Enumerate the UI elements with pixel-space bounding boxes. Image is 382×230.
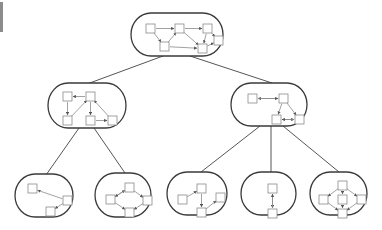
- graph-node-box: [214, 36, 223, 45]
- tree-edge-root-to-mid-right: [190, 56, 272, 83]
- tree-edge-mid-right-to-leaf-5: [283, 126, 339, 172]
- graph-node-box: [268, 209, 277, 218]
- graph-node-box: [203, 24, 212, 33]
- graph-node-box: [338, 181, 347, 190]
- graph-node-box: [46, 207, 55, 216]
- graph-node-box: [106, 195, 115, 204]
- tree-edge-root-to-mid-left: [87, 56, 163, 84]
- graph-node-box: [86, 92, 95, 101]
- container-outline: [15, 174, 73, 217]
- graph-node-box: [125, 208, 134, 217]
- graph-node-box: [248, 94, 257, 103]
- graph-node-box: [108, 116, 117, 125]
- graph-node-box: [175, 24, 184, 33]
- tree-edge-mid-right-to-leaf-3: [201, 126, 260, 172]
- graph-node-box: [63, 92, 72, 101]
- graph-node-box: [28, 184, 37, 193]
- container-leaf-2[interactable]: [95, 173, 152, 217]
- graph-node-box: [125, 183, 134, 192]
- graph-node-box: [86, 116, 95, 125]
- container-leaf-3[interactable]: [167, 172, 227, 217]
- container-mid-right[interactable]: [231, 83, 307, 126]
- graph-node-box: [338, 195, 347, 204]
- graph-node-box: [178, 195, 187, 204]
- container-leaf-4[interactable]: [241, 172, 296, 218]
- container-outline: [241, 172, 296, 215]
- graph-node-box: [146, 24, 155, 33]
- graph-node-box: [272, 115, 281, 124]
- graph-node-box: [338, 209, 347, 218]
- container-leaf-5[interactable]: [310, 172, 367, 218]
- container-leaf-1[interactable]: [15, 174, 73, 217]
- container-outline: [131, 13, 223, 56]
- container-mid-left[interactable]: [48, 83, 126, 128]
- container-outline: [95, 173, 151, 217]
- graph-node-box: [295, 115, 304, 124]
- graph-node-box: [279, 94, 288, 103]
- tree-edge-mid-left-to-leaf-1: [46, 128, 79, 175]
- hierarchy-diagram: [0, 0, 382, 230]
- graph-node-box: [268, 184, 277, 193]
- container-root[interactable]: [131, 13, 223, 56]
- graph-node-box: [63, 116, 72, 125]
- graph-node-box: [319, 195, 328, 204]
- graph-node-box: [143, 196, 152, 205]
- graph-node-box: [160, 42, 169, 51]
- container-outline: [310, 172, 367, 215]
- graph-node-box: [357, 195, 366, 204]
- tree-edge-mid-left-to-leaf-2: [94, 128, 125, 173]
- graph-node-box: [216, 193, 225, 202]
- graph-node-box: [197, 184, 206, 193]
- graph-node-box: [63, 196, 72, 205]
- graph-node-box: [197, 208, 206, 217]
- graph-node-box: [198, 44, 207, 53]
- containers: [15, 13, 367, 218]
